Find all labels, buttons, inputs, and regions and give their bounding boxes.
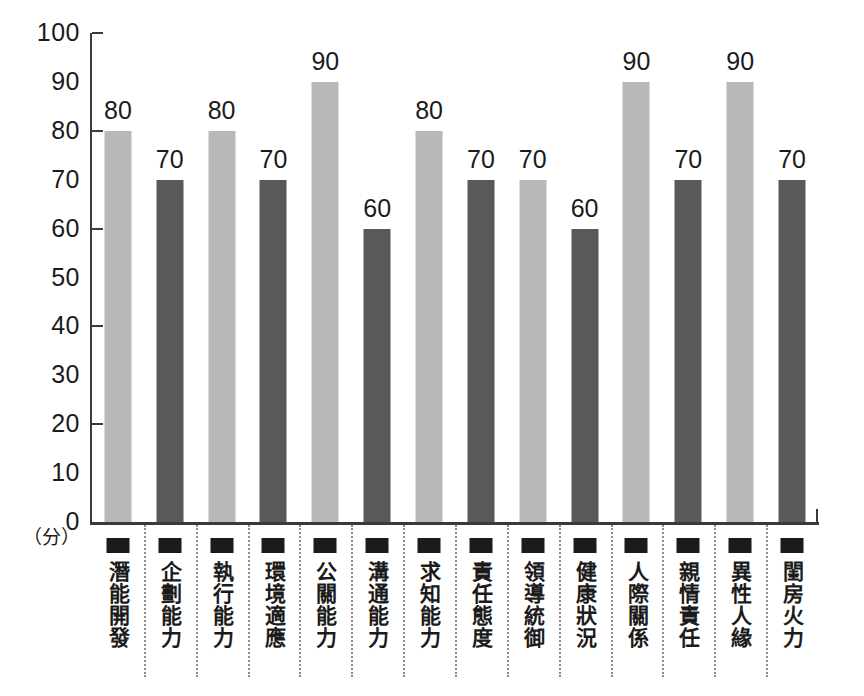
category-marker-icon (729, 538, 752, 553)
bar-value-label: 70 (467, 147, 495, 172)
bar-value-label: 80 (104, 98, 132, 123)
bar-group: 70 (248, 33, 300, 522)
category-label-strip: 潛能開發企劃能力執行能力環境適應公關能力溝通能力求知能力責任態度領導統御健康狀況… (92, 525, 818, 696)
bar (416, 131, 443, 522)
bar (260, 180, 287, 522)
category-separator (248, 525, 250, 677)
category-label-group: 環境適應 (248, 525, 300, 696)
y-axis-tick-label: 10 (14, 460, 80, 485)
bar (364, 229, 391, 522)
category-label: 企劃能力 (159, 561, 181, 649)
category-label-group: 閨房火力 (766, 525, 818, 696)
bar (156, 180, 183, 522)
bar-group: 90 (611, 33, 663, 522)
category-separator (144, 525, 146, 677)
category-label: 責任態度 (470, 561, 492, 649)
category-separator (559, 525, 561, 677)
bar-value-label: 70 (674, 147, 702, 172)
category-label-group: 企劃能力 (144, 525, 196, 696)
bar-value-label: 90 (623, 49, 651, 74)
bar (467, 180, 494, 522)
bar-value-label: 80 (415, 98, 443, 123)
category-marker-icon (106, 538, 129, 553)
y-axis-tick-label: 70 (14, 167, 80, 192)
y-axis-tick-label: 90 (14, 69, 80, 94)
category-marker-icon (314, 538, 337, 553)
bar-value-label: 80 (208, 98, 236, 123)
category-label: 親情責任 (677, 561, 699, 649)
bar-value-label: 90 (726, 49, 754, 74)
category-label: 環境適應 (262, 561, 284, 649)
category-separator (507, 525, 509, 677)
category-marker-icon (521, 538, 544, 553)
bar-group: 80 (92, 33, 144, 522)
category-label-group: 求知能力 (403, 525, 455, 696)
category-label: 領導統御 (522, 561, 544, 649)
bar (519, 180, 546, 522)
bar-group: 70 (662, 33, 714, 522)
y-axis-tick-label: 20 (14, 411, 80, 436)
category-marker-icon (677, 538, 700, 553)
category-separator (455, 525, 457, 677)
category-separator (196, 525, 198, 677)
category-label: 求知能力 (418, 561, 440, 649)
category-separator (351, 525, 353, 677)
category-marker-icon (625, 538, 648, 553)
category-label-group: 領導統御 (507, 525, 559, 696)
bar-group: 70 (455, 33, 507, 522)
bar (571, 229, 598, 522)
bar-chart: 1009080706050403020100 （分） 8070807090608… (0, 0, 864, 696)
plot-area: 8070807090608070706090709070 (92, 33, 818, 522)
bar-value-label: 90 (311, 49, 339, 74)
bar-group: 60 (559, 33, 611, 522)
category-label: 閨房火力 (781, 561, 803, 649)
bar-value-label: 70 (156, 147, 184, 172)
category-marker-icon (781, 538, 804, 553)
bar-value-label: 70 (778, 147, 806, 172)
category-separator (611, 525, 613, 677)
category-marker-icon (262, 538, 285, 553)
bar (675, 180, 702, 522)
y-axis-tick-label: 50 (14, 265, 80, 290)
category-separator (714, 525, 716, 677)
bar-value-label: 60 (571, 196, 599, 221)
category-label: 執行能力 (211, 561, 233, 649)
y-axis-tick-label: 30 (14, 362, 80, 387)
category-separator (299, 525, 301, 677)
bar-value-label: 70 (260, 147, 288, 172)
bar-group: 70 (144, 33, 196, 522)
bar (779, 180, 806, 522)
category-marker-icon (158, 538, 181, 553)
category-label-group: 異性人緣 (714, 525, 766, 696)
bar-value-label: 70 (519, 147, 547, 172)
y-axis-tick-label: 80 (14, 118, 80, 143)
category-marker-icon (366, 538, 389, 553)
bar-group: 60 (351, 33, 403, 522)
bar (208, 131, 235, 522)
category-label-group: 親情責任 (662, 525, 714, 696)
category-label: 健康狀況 (574, 561, 596, 649)
category-label-group: 責任態度 (455, 525, 507, 696)
bar-group: 70 (507, 33, 559, 522)
category-label: 異性人緣 (729, 561, 751, 649)
bar (104, 131, 131, 522)
y-axis-tick-label: 40 (14, 313, 80, 338)
category-label: 人際關係 (625, 561, 647, 649)
category-label-group: 執行能力 (196, 525, 248, 696)
category-label: 溝通能力 (366, 561, 388, 649)
category-label-group: 人際關係 (611, 525, 663, 696)
category-separator (403, 525, 405, 677)
category-label-group: 健康狀況 (559, 525, 611, 696)
category-marker-icon (210, 538, 233, 553)
bar (727, 82, 754, 522)
bar-group: 70 (766, 33, 818, 522)
bar-group: 90 (299, 33, 351, 522)
y-axis-unit-label: （分） (14, 528, 88, 547)
category-separator (662, 525, 664, 677)
category-marker-icon (469, 538, 492, 553)
category-label-group: 溝通能力 (351, 525, 403, 696)
y-axis-tick-label: 60 (14, 216, 80, 241)
bar-group: 80 (196, 33, 248, 522)
y-axis-tick-label: 100 (14, 20, 80, 45)
category-marker-icon (573, 538, 596, 553)
